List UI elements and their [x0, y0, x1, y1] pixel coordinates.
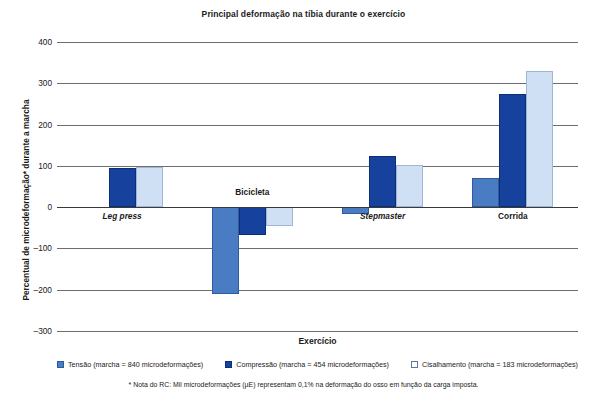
chart-figure: Principal deformação na tíbia durante o …: [0, 0, 607, 407]
y-tick-label: –300: [34, 326, 52, 336]
x-axis-label: Exercício: [57, 336, 578, 346]
category-label: Bicicleta: [172, 187, 332, 197]
bar-compressao: [109, 168, 136, 207]
y-tick-label: 200: [38, 120, 52, 130]
bar-cisalhamento: [526, 71, 553, 207]
legend-label: Tensão (marcha = 840 microdeformações): [68, 360, 203, 369]
chart-legend: Tensão (marcha = 840 microdeformações)Co…: [57, 360, 578, 369]
bar-cisalhamento: [266, 207, 293, 226]
bar-tensao: [472, 178, 499, 207]
category-label: Corrida: [433, 211, 593, 221]
chart-footnote: * Nota do RC: Mil microdeformações (µE) …: [0, 381, 607, 388]
bar-group: Corrida: [472, 42, 553, 331]
y-tick-label: 100: [38, 161, 52, 171]
bar-cisalhamento: [136, 167, 163, 207]
y-tick-label: 300: [38, 78, 52, 88]
bar-compressao: [369, 156, 396, 208]
bar-tensao: [212, 207, 239, 294]
legend-swatch-icon: [225, 361, 232, 368]
bar-group: Stepmaster: [342, 42, 423, 331]
y-tick-label: 400: [38, 37, 52, 47]
y-tick-label: –200: [34, 285, 52, 295]
bar-compressao: [499, 94, 526, 208]
gridline: –300: [57, 331, 578, 332]
legend-label: Cisalhamento (marcha = 183 microdeformaç…: [422, 360, 578, 369]
bar-compressao: [239, 207, 266, 235]
zero-axis-line: [57, 207, 578, 208]
y-axis-label: Percentual de microdeformação* durante a…: [21, 70, 31, 330]
plot-area: 4003002001000–100–200–300 Leg pressBicic…: [57, 42, 578, 331]
bar-cisalhamento: [396, 165, 423, 208]
legend-item[interactable]: Compressão (marcha = 454 microdeformaçõe…: [225, 360, 389, 369]
category-label: Leg press: [42, 211, 202, 221]
bar-group: Bicicleta: [212, 42, 293, 331]
chart-title: Principal deformação na tíbia durante o …: [0, 9, 607, 19]
legend-item[interactable]: Cisalhamento (marcha = 183 microdeformaç…: [411, 360, 578, 369]
legend-swatch-icon: [411, 361, 418, 368]
legend-swatch-icon: [57, 361, 64, 368]
y-tick-label: –100: [34, 243, 52, 253]
legend-label: Compressão (marcha = 454 microdeformaçõe…: [236, 360, 389, 369]
legend-item[interactable]: Tensão (marcha = 840 microdeformações): [57, 360, 203, 369]
bar-group: Leg press: [82, 42, 163, 331]
